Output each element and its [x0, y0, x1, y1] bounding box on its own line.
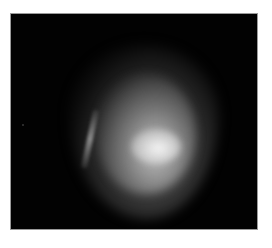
- dust-speck: [22, 124, 24, 126]
- photo-frame: [10, 13, 258, 230]
- glow-highlight: [131, 129, 181, 164]
